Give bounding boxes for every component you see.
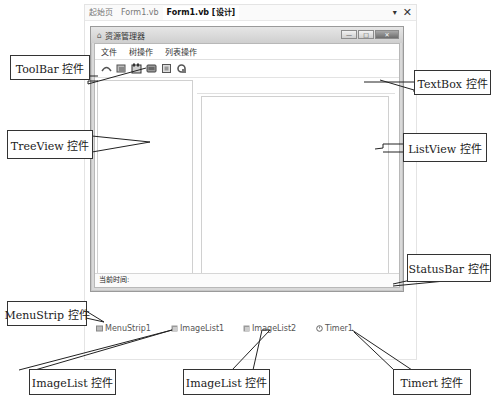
form-window[interactable]: ⌂ 资源管理器 — □ ✕ 文件 树操作 列表操作 <box>90 26 404 292</box>
form-titlebar[interactable]: ⌂ 资源管理器 — □ ✕ <box>91 27 403 43</box>
list-button[interactable] <box>161 63 172 74</box>
status-bar: 当前时间: <box>95 273 399 287</box>
callout-treeview: TreeView 控件 <box>7 130 93 159</box>
minimize-button[interactable]: — <box>341 30 357 39</box>
callout-listview-text: ListView 控件 <box>408 140 482 156</box>
callout-treeview-text: TreeView 控件 <box>11 137 89 153</box>
tray-label: ImageList2 <box>252 324 296 333</box>
imagelist-icon <box>243 325 250 332</box>
status-label: 当前时间: <box>99 276 129 284</box>
folder-up-button[interactable] <box>131 63 142 74</box>
menu-item-tree-ops[interactable]: 树操作 <box>123 46 159 57</box>
form-icon: ⌂ <box>97 31 102 40</box>
view-button[interactable] <box>146 63 157 74</box>
callout-listview: ListView 控件 <box>403 133 487 162</box>
textbox[interactable] <box>197 80 395 94</box>
close-icon[interactable]: ✕ <box>403 6 412 19</box>
callout-menustrip-text: MenuStrip 控件 <box>4 306 89 322</box>
callout-textbox-text: TextBox 控件 <box>417 75 487 91</box>
tab-start-page[interactable]: 起始页 <box>85 6 117 20</box>
form-client-area: 文件 树操作 列表操作 <box>94 43 400 288</box>
tray-item-timer[interactable]: Timer1 <box>316 324 353 333</box>
callout-imagelist1-text: ImageList 控件 <box>32 374 113 390</box>
form-title: 资源管理器 <box>105 30 145 41</box>
close-button[interactable]: ✕ <box>375 30 399 39</box>
callout-textbox: TextBox 控件 <box>414 70 491 95</box>
forward-icon <box>116 63 127 74</box>
treeview[interactable] <box>97 80 193 281</box>
callout-timer-text: Timert 控件 <box>401 374 464 390</box>
callout-toolbar-text: ToolBar 控件 <box>16 60 85 76</box>
tray-label: MenuStrip1 <box>105 324 151 333</box>
toolbar <box>95 60 399 78</box>
callout-toolbar: ToolBar 控件 <box>10 55 90 80</box>
menu-item-list-ops[interactable]: 列表操作 <box>159 46 203 57</box>
chevron-down-icon[interactable]: ▾ <box>393 8 397 17</box>
window-buttons: — □ ✕ <box>341 30 399 39</box>
callout-statusbar-text: StatusBar 控件 <box>408 260 489 276</box>
tab-form1-design[interactable]: Form1.vb [设计] <box>163 6 240 20</box>
refresh-icon <box>176 63 187 74</box>
tray-label: ImageList1 <box>180 324 224 333</box>
callout-imagelist2-text: ImageList 控件 <box>186 374 267 390</box>
imagelist-icon <box>171 325 178 332</box>
callout-menustrip: MenuStrip 控件 <box>7 301 87 326</box>
timer-icon <box>316 325 323 332</box>
callout-imagelist1: ImageList 控件 <box>29 369 116 395</box>
tab-form1-code[interactable]: Form1.vb <box>117 6 163 20</box>
refresh-button[interactable] <box>176 63 187 74</box>
view-icon <box>146 63 157 74</box>
list-icon <box>161 63 172 74</box>
forward-button[interactable] <box>116 63 127 74</box>
tray-item-imagelist2[interactable]: ImageList2 <box>243 324 296 333</box>
tray-item-menustrip[interactable]: MenuStrip1 <box>96 324 151 333</box>
menu-item-file[interactable]: 文件 <box>95 46 123 57</box>
maximize-button[interactable]: □ <box>358 30 374 39</box>
back-icon <box>101 63 112 74</box>
menu-strip: 文件 树操作 列表操作 <box>95 44 399 60</box>
listview[interactable] <box>201 96 389 279</box>
callout-imagelist2: ImageList 控件 <box>183 369 270 395</box>
back-button[interactable] <box>101 63 112 74</box>
callout-statusbar: StatusBar 控件 <box>407 254 491 282</box>
folder-up-icon <box>131 63 142 74</box>
tray-item-imagelist1[interactable]: ImageList1 <box>171 324 224 333</box>
document-tabstrip: 起始页 Form1.vb Form1.vb [设计] ▾ ✕ <box>85 5 416 21</box>
callout-timer: Timert 控件 <box>393 369 471 395</box>
menustrip-icon <box>96 325 103 332</box>
tray-label: Timer1 <box>325 324 353 333</box>
